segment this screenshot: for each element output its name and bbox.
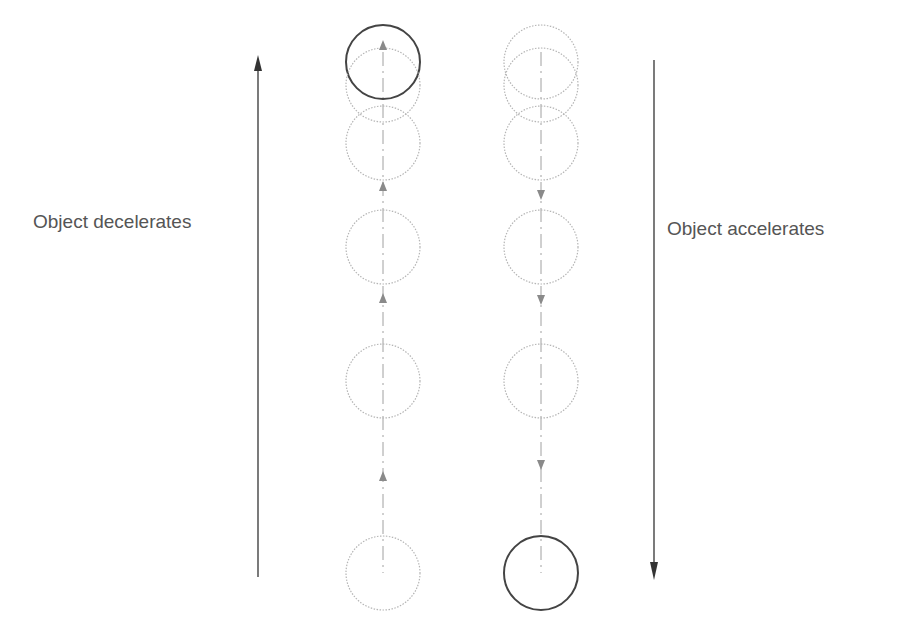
object-position-dotted (504, 344, 578, 418)
small-arrow-icon (379, 40, 387, 50)
motion-diagram (0, 0, 903, 637)
decelerates-label: Object decelerates (33, 211, 191, 233)
object-position-dotted (346, 344, 420, 418)
accelerates-label: Object accelerates (667, 218, 824, 240)
small-arrow-icon (537, 190, 545, 200)
accelerating-object-column (504, 25, 578, 610)
arrow-down-icon (650, 562, 658, 580)
decelerating-object-column (346, 25, 420, 610)
direction-arrows (254, 55, 658, 580)
small-arrow-icon (379, 471, 387, 481)
small-arrow-icon (379, 293, 387, 303)
arrow-up-icon (254, 55, 262, 71)
small-arrow-icon (537, 460, 545, 470)
small-arrow-icon (379, 181, 387, 191)
small-arrow-icon (537, 295, 545, 305)
